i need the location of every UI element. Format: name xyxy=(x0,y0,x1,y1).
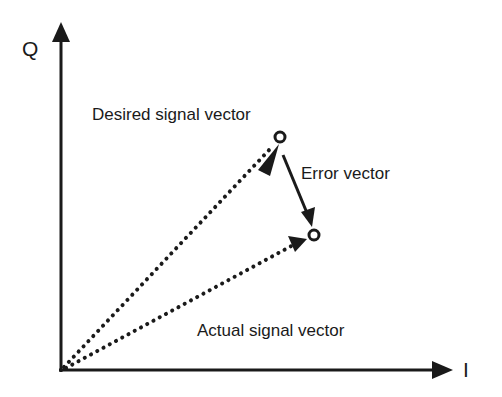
desired-signal-label: Desired signal vector xyxy=(92,106,251,123)
actual-vector-arrowhead-icon xyxy=(288,236,307,252)
actual-signal-label: Actual signal vector xyxy=(197,322,344,339)
q-axis xyxy=(52,22,70,372)
q-axis-label: Q xyxy=(22,38,38,59)
i-axis-label: I xyxy=(463,359,469,380)
actual-point-icon xyxy=(309,230,319,240)
i-axis xyxy=(59,361,453,379)
i-axis-arrowhead-icon xyxy=(432,361,453,379)
q-axis-arrowhead-icon xyxy=(52,22,70,42)
actual-signal-vector xyxy=(66,230,319,368)
error-vector-label: Error vector xyxy=(301,165,390,182)
desired-point-icon xyxy=(275,132,285,142)
error-vector-arrowhead-icon xyxy=(301,207,315,227)
